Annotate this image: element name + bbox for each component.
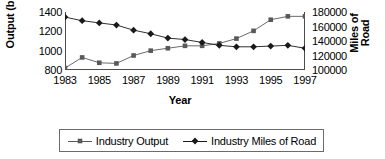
data-point-marker-square <box>65 66 67 70</box>
x-axis-ticks: 19831985198719891991199319951997 <box>0 74 385 88</box>
data-point-marker-square <box>97 60 102 65</box>
y-axis-right-tick-label: 140000 <box>312 36 347 47</box>
x-axis-tick-label: 1985 <box>82 74 116 86</box>
legend-item-label: Industry Miles of Road <box>211 135 316 147</box>
x-axis-tick-label: 1995 <box>254 74 288 86</box>
data-point-marker-diamond <box>147 30 154 37</box>
x-axis-tick-label: 1983 <box>48 74 82 86</box>
y-axis-left-tick-label: 1000 <box>39 46 62 57</box>
x-axis-title: Year <box>120 94 240 106</box>
data-point-marker-square <box>268 17 273 22</box>
legend-item-label: Industry Output <box>96 135 168 147</box>
data-point-marker-square <box>286 14 291 19</box>
data-point-marker-diamond <box>199 39 206 46</box>
x-axis-tick-label: 1997 <box>288 74 322 86</box>
data-point-marker-diamond <box>284 42 291 49</box>
y-axis-left-tick-label: 1400 <box>39 7 62 18</box>
legend-key-diamond-icon <box>182 135 208 147</box>
y-axis-right-title-line2: Road <box>360 3 371 63</box>
plot-area <box>65 12 305 70</box>
data-point-marker-square <box>148 48 153 53</box>
y-axis-left-title: Output (bil) <box>4 0 16 55</box>
y-axis-left-tick-label: 1200 <box>39 26 62 37</box>
data-point-marker-square <box>80 55 85 60</box>
data-point-marker-square <box>166 46 171 51</box>
y-axis-right-tick-label: 180000 <box>312 7 347 18</box>
chart-legend: Industry OutputIndustry Miles of Road <box>59 129 324 152</box>
x-axis-tick-label: 1991 <box>185 74 219 86</box>
data-point-marker-square <box>131 53 136 58</box>
data-point-marker-square <box>234 36 239 41</box>
data-point-marker-diamond <box>96 19 103 26</box>
data-point-marker-diamond <box>267 43 274 50</box>
data-point-marker-square <box>114 61 119 66</box>
y-axis-right-title: Miles of Road <box>349 3 371 63</box>
y-axis-right-tick-label: 160000 <box>312 22 347 33</box>
data-point-marker-diamond <box>164 35 171 42</box>
data-point-marker-diamond <box>79 17 86 24</box>
data-point-marker-diamond <box>250 43 257 50</box>
data-point-marker-diamond <box>113 22 120 29</box>
series-canvas <box>65 12 305 70</box>
data-point-marker-diamond <box>302 45 305 52</box>
data-point-marker-square <box>78 138 83 143</box>
legend-item[interactable]: Industry Output <box>67 135 168 147</box>
legend-item[interactable]: Industry Miles of Road <box>182 135 316 147</box>
data-point-marker-square <box>183 44 188 49</box>
data-point-marker-diamond <box>192 137 199 144</box>
legend-key-square-icon <box>67 135 93 147</box>
x-axis-tick-label: 1989 <box>151 74 185 86</box>
chart-figure: Output (bil) Miles of Road Year 14001200… <box>0 0 385 159</box>
data-point-marker-diamond <box>65 14 68 21</box>
y-axis-right-tick-label: 120000 <box>312 51 347 62</box>
data-point-marker-diamond <box>233 43 240 50</box>
x-axis-tick-label: 1987 <box>117 74 151 86</box>
data-point-marker-square <box>303 14 305 19</box>
data-point-marker-diamond <box>130 27 137 34</box>
data-point-marker-diamond <box>182 36 189 43</box>
data-point-marker-square <box>251 29 256 34</box>
x-axis-tick-label: 1993 <box>219 74 253 86</box>
